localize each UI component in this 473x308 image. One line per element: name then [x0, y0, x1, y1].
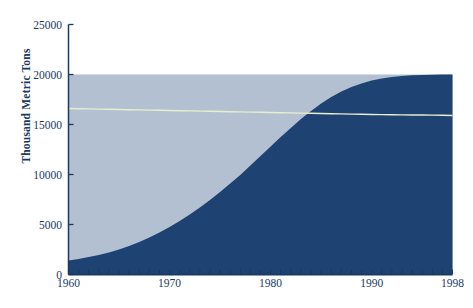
x-tick-label: 1990	[360, 277, 383, 289]
plot-areas	[69, 75, 453, 275]
area-chart-plot	[0, 0, 473, 308]
x-tick-label: 1998	[441, 277, 464, 289]
x-tick-label: 1960	[57, 277, 80, 289]
chart-canvas: Thousand Metric Tons 0500010000150002000…	[0, 0, 473, 308]
x-tick-label: 1980	[259, 277, 282, 289]
x-tick-label: 1970	[158, 277, 181, 289]
x-axis-tick-labels: 19601970198019901998	[0, 277, 473, 297]
